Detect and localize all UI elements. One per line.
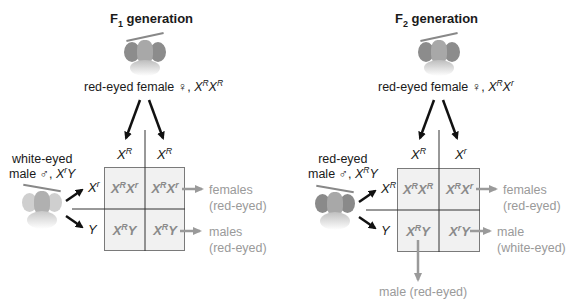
- result-label: male (red-eyed): [379, 284, 467, 300]
- result-label: males(red-eyed): [209, 224, 267, 256]
- result-label: females(red-eyed): [503, 182, 561, 214]
- male-gamete-2: Y: [381, 223, 390, 238]
- offspring-cell: XRY: [145, 223, 185, 238]
- panel-title-f2: F2 generation: [395, 11, 478, 29]
- panel-title-f1: F1 generation: [110, 11, 193, 29]
- female-parent-label: red-eyed female ♀, XRXR: [84, 80, 223, 94]
- result-label: male(white-eyed): [497, 224, 566, 256]
- fly-male-icon: [313, 186, 357, 232]
- offspring-cell: XrY: [439, 224, 480, 239]
- offspring-cell: XRY: [397, 224, 439, 239]
- offspring-cell: XRXr: [145, 181, 185, 196]
- fly-female-icon: [416, 34, 462, 76]
- fly-male-icon: [20, 185, 64, 231]
- offspring-cell: XRXr: [104, 181, 145, 196]
- diagram-lines: [0, 0, 574, 305]
- male-parent-label: red-eyed male ♂, XRY: [308, 152, 378, 182]
- male-gamete-2: Y: [88, 222, 97, 237]
- male-parent-label: white-eyed male ♂, XrY: [9, 152, 75, 182]
- fly-female-icon: [122, 34, 168, 76]
- female-gamete-1: XR: [411, 147, 426, 162]
- female-gamete-2: Xr: [455, 147, 467, 162]
- male-gamete-1: Xr: [88, 180, 100, 195]
- offspring-cell: XRY: [104, 223, 145, 238]
- result-label: females(red-eyed): [209, 182, 267, 214]
- male-gamete-1: XR: [381, 181, 396, 196]
- offspring-cell: XRXr: [439, 182, 480, 197]
- female-gamete-2: XR: [157, 147, 172, 162]
- offspring-cell: XRXR: [397, 182, 439, 197]
- female-parent-label: red-eyed female ♀, XRXr: [378, 80, 514, 94]
- female-gamete-1: XR: [117, 147, 132, 162]
